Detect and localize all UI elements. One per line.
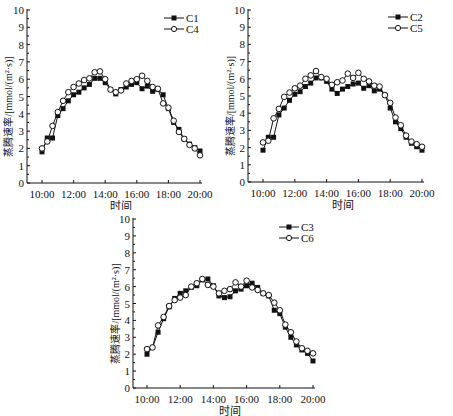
- data-point: [129, 78, 135, 84]
- data-point: [340, 78, 346, 84]
- data-point: [87, 82, 92, 87]
- y-tick-label: 6: [240, 73, 246, 85]
- legend: C1C4: [164, 12, 199, 35]
- y-tick-label: 10: [13, 4, 25, 16]
- y-tick-label: 0: [125, 382, 131, 394]
- data-point: [172, 297, 178, 303]
- y-tick-label: 10: [234, 4, 246, 16]
- data-point: [324, 76, 330, 82]
- x-tick-label: 20:00: [187, 188, 213, 200]
- data-point: [387, 100, 393, 106]
- data-point: [50, 136, 55, 141]
- data-point: [277, 307, 283, 313]
- y-tick-label: 2: [240, 142, 246, 154]
- data-point: [272, 308, 277, 313]
- data-point: [361, 76, 367, 82]
- data-point: [238, 284, 244, 290]
- y-axis-label: 蒸腾速率/[mmol/(m²·s)]: [224, 56, 237, 156]
- data-point: [283, 322, 289, 328]
- data-point: [288, 329, 294, 335]
- data-point: [377, 84, 383, 90]
- data-point: [414, 141, 420, 147]
- data-point: [398, 122, 404, 128]
- y-tick-label: 4: [19, 108, 25, 120]
- x-tick-label: 12:00: [282, 187, 308, 199]
- y-tick-label: 9: [240, 21, 246, 33]
- data-point: [71, 92, 76, 97]
- line-chart: 01234567891010:0012:0014:0016:0018:0020:…: [0, 0, 228, 210]
- data-point: [334, 79, 340, 85]
- data-point: [329, 82, 335, 88]
- data-point: [108, 87, 114, 93]
- data-point: [244, 283, 249, 288]
- data-point: [260, 140, 266, 146]
- data-point: [271, 116, 277, 122]
- data-point: [205, 276, 210, 281]
- data-point: [200, 276, 206, 282]
- data-point: [271, 300, 277, 306]
- data-point: [66, 98, 71, 103]
- data-point: [308, 81, 313, 86]
- data-point: [177, 295, 183, 301]
- data-point: [294, 339, 300, 345]
- data-point: [192, 146, 198, 152]
- data-point: [313, 68, 319, 74]
- data-point: [155, 323, 161, 329]
- data-point: [187, 142, 193, 148]
- data-point: [181, 136, 187, 142]
- legend-marker-square-icon: [172, 16, 177, 21]
- data-point: [319, 74, 325, 80]
- data-point: [340, 87, 345, 92]
- y-tick-label: 6: [19, 73, 25, 85]
- legend-marker-circle-icon: [286, 235, 291, 240]
- x-tick-label: 16:00: [234, 393, 260, 405]
- data-point: [276, 106, 282, 112]
- y-tick-label: 1: [125, 365, 131, 377]
- data-point: [97, 76, 102, 81]
- data-point: [356, 81, 361, 86]
- y-tick-label: 9: [19, 21, 25, 33]
- legend-marker-circle-icon: [171, 26, 176, 31]
- data-point: [249, 285, 255, 291]
- y-tick-label: 8: [240, 38, 246, 50]
- data-point: [81, 77, 87, 83]
- chart-c3-c6: 01234567891010:0012:0014:0016:0018:0020:…: [107, 208, 343, 416]
- data-point: [297, 83, 303, 89]
- data-point: [176, 129, 182, 135]
- y-tick-label: 5: [19, 91, 25, 103]
- data-point: [66, 89, 72, 95]
- x-tick-label: 10:00: [250, 187, 276, 199]
- data-point: [97, 69, 103, 75]
- data-point: [150, 345, 156, 351]
- x-tick-label: 18:00: [267, 393, 293, 405]
- data-point: [211, 284, 217, 290]
- x-tick-label: 18:00: [156, 188, 182, 200]
- data-point: [76, 81, 82, 87]
- data-point: [382, 92, 388, 98]
- x-tick-label: 12:00: [61, 188, 87, 200]
- data-point: [350, 75, 356, 81]
- data-point: [403, 133, 409, 139]
- data-point: [150, 84, 156, 90]
- y-tick-label: 8: [19, 39, 25, 51]
- y-tick-label: 0: [19, 177, 25, 189]
- x-tick-label: 14:00: [201, 393, 227, 405]
- y-axis-label: 蒸腾速率/[mmol/(m²·s)]: [109, 263, 122, 363]
- data-point: [345, 71, 351, 77]
- data-point: [244, 278, 250, 284]
- x-tick-label: 20:00: [409, 187, 435, 199]
- y-tick-label: 1: [19, 160, 25, 172]
- y-tick-label: 6: [125, 281, 131, 293]
- data-point: [118, 88, 124, 94]
- data-point: [222, 288, 228, 294]
- data-point: [233, 280, 239, 286]
- data-point: [276, 112, 281, 117]
- data-point: [183, 292, 189, 298]
- x-tick-label: 16:00: [346, 187, 372, 199]
- x-tick-label: 16:00: [124, 188, 150, 200]
- y-tick-label: 0: [240, 176, 246, 188]
- data-point: [155, 86, 161, 92]
- data-point: [305, 348, 311, 354]
- data-point: [356, 70, 362, 76]
- data-point: [261, 148, 266, 153]
